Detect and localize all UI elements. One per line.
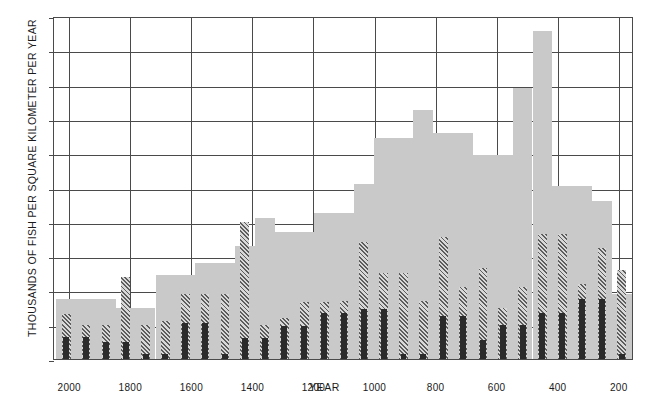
x-tick-mark xyxy=(436,18,437,23)
y-axis-title: THOUSANDS OF FISH PER SQUARE KILOMETER P… xyxy=(26,0,38,358)
x-tick-label: 800 xyxy=(406,382,466,393)
x-tick-mark xyxy=(375,18,376,23)
x-tick-label: 600 xyxy=(467,382,527,393)
y-tick-mark xyxy=(49,361,54,362)
x-tick-label: 1600 xyxy=(161,382,221,393)
x-tick-mark xyxy=(313,18,314,23)
x-tick-label: 1000 xyxy=(345,382,405,393)
x-tick-label: 1200 xyxy=(283,382,343,393)
x-tick-label: 400 xyxy=(528,382,588,393)
x-tick-mark xyxy=(619,18,620,23)
x-tick-mark xyxy=(252,18,253,23)
x-tick-mark xyxy=(191,18,192,23)
plot-area: 020406080100120140160180200 200018001600… xyxy=(53,17,633,360)
x-tick-label: 1400 xyxy=(222,382,282,393)
x-tick-mark xyxy=(558,18,559,23)
x-tick-mark xyxy=(130,18,131,23)
chart-root: THOUSANDS OF FISH PER SQUARE KILOMETER P… xyxy=(0,0,649,404)
x-tick-mark xyxy=(69,18,70,23)
x-tick-label: 2000 xyxy=(39,382,99,393)
x-tick-label: 200 xyxy=(589,382,649,393)
x-axis-ticks: 200018001600140012001000800600400200 xyxy=(54,18,632,359)
x-tick-label: 1800 xyxy=(100,382,160,393)
x-tick-mark xyxy=(497,18,498,23)
